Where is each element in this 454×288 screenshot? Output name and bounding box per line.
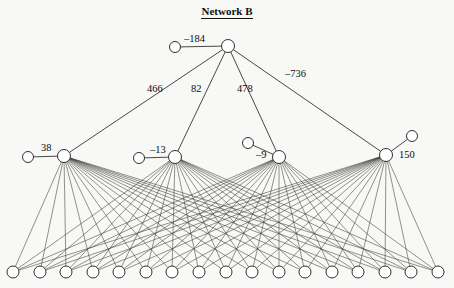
input-node (113, 266, 125, 278)
input-node (166, 266, 178, 278)
input-hidden-edge (19, 157, 380, 270)
hidden-output-edge (69, 50, 222, 153)
input-hidden-edge (147, 163, 173, 266)
input-hidden-edge (41, 162, 62, 266)
hidden-node (58, 150, 71, 163)
input-hidden-edge (70, 159, 247, 268)
input-hidden-edge (181, 160, 380, 269)
input-hidden-edge (283, 162, 381, 268)
input-node (34, 266, 46, 278)
hidden-node (273, 151, 286, 164)
input-hidden-edge (387, 161, 409, 266)
weight-label-bias-hidden: 150 (399, 150, 415, 161)
hidden-nodes (58, 149, 393, 164)
input-hidden-edge (176, 162, 274, 268)
input-node (405, 266, 417, 278)
bias-node (407, 131, 418, 142)
input-hidden-edge (70, 159, 274, 269)
input-node (326, 266, 338, 278)
bias-node (243, 138, 254, 149)
hidden-output-edge (231, 52, 277, 151)
network-graph (0, 0, 454, 288)
weight-label-hidden-output: 466 (147, 84, 163, 95)
bias-nodes-group (23, 42, 418, 164)
hidden-output-edge (178, 52, 225, 151)
hidden-to-output-edges (69, 50, 380, 153)
input-to-hidden-edges (15, 157, 435, 270)
bias-node (170, 42, 181, 53)
weight-label-hidden-output: –736 (285, 69, 306, 80)
input-node (432, 266, 444, 278)
weight-label-bias-hidden: 38 (41, 143, 52, 154)
input-hidden-edge (96, 162, 171, 267)
weight-label-bias-output: –184 (184, 34, 205, 45)
input-nodes (7, 266, 444, 278)
input-hidden-edge (66, 162, 92, 266)
weight-label-hidden-output: 82 (191, 84, 202, 95)
input-hidden-edge (70, 162, 170, 268)
input-hidden-edge (283, 160, 382, 268)
input-hidden-edge (204, 158, 380, 268)
bias-edge (180, 46, 221, 47)
output-node (222, 40, 235, 53)
input-node (193, 266, 205, 278)
input-hidden-edge (253, 163, 277, 266)
bias-edges (33, 46, 407, 158)
input-hidden-edge (15, 162, 61, 267)
weight-label-bias-hidden: –9 (256, 150, 267, 161)
input-node (7, 266, 19, 278)
input-hidden-edge (359, 161, 384, 266)
input-node (273, 266, 285, 278)
weight-label-bias-hidden: –13 (150, 145, 166, 156)
hidden-node (380, 149, 393, 162)
input-hidden-edge (229, 163, 277, 267)
input-node (299, 266, 311, 278)
weight-label-hidden-output: 478 (237, 84, 253, 95)
input-hidden-edge (181, 160, 433, 270)
output-nodes (222, 40, 235, 53)
input-hidden-edge (178, 163, 224, 267)
input-hidden-edge (68, 161, 167, 268)
input-hidden-edge (70, 159, 327, 270)
bias-node (23, 152, 34, 163)
input-node (352, 266, 364, 278)
input-node (246, 266, 258, 278)
input-hidden-edge (70, 158, 379, 270)
hidden-output-edge (233, 50, 380, 152)
hidden-node (169, 151, 182, 164)
input-hidden-edge (280, 163, 303, 266)
input-hidden-edge (389, 161, 436, 267)
input-node (140, 266, 152, 278)
bias-edge (144, 157, 168, 158)
input-hidden-edge (70, 158, 352, 269)
input-hidden-edge (122, 163, 173, 267)
input-node (87, 266, 99, 278)
bias-edge (33, 156, 57, 157)
network-diagram-figure: Network B –18446682478–73638–13–9150 (0, 0, 454, 288)
input-node (60, 266, 72, 278)
input-node (379, 266, 391, 278)
bias-node (134, 153, 145, 164)
input-node (220, 266, 232, 278)
